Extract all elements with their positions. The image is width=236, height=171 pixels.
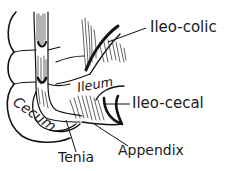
label-cecum: Cecum xyxy=(10,93,59,134)
label-tenia: Tenia xyxy=(57,149,94,165)
tenia-band xyxy=(34,12,82,122)
ileo-colic-fold xyxy=(56,18,126,84)
label-ileo-colic: Ileo-colic xyxy=(150,18,217,36)
ileocecal-diagram: Ileo-colic Ileum Ileo-cecal Cecum Tenia … xyxy=(0,0,236,171)
label-appendix: Appendix xyxy=(118,142,184,158)
label-ileo-cecal: Ileo-cecal xyxy=(132,94,204,112)
